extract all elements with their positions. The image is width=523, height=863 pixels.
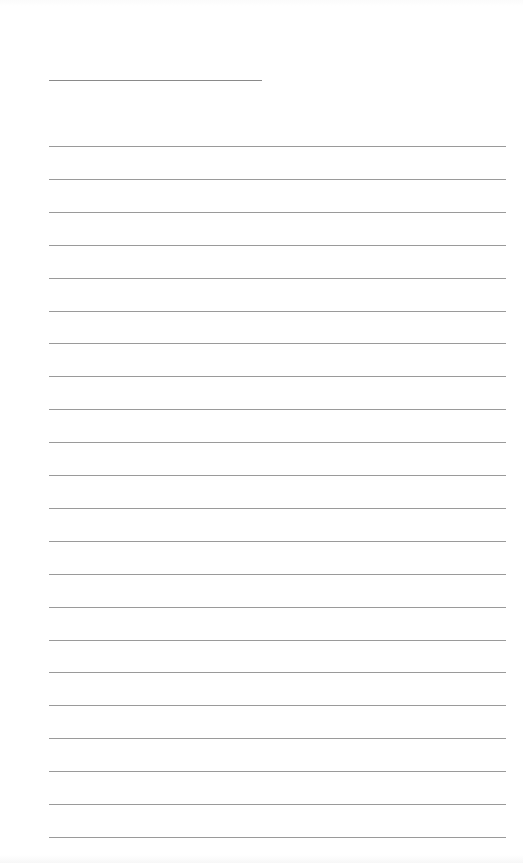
line-text[interactable] (49, 721, 506, 737)
line-text[interactable] (49, 129, 506, 145)
ruled-line (49, 607, 506, 608)
ruled-line (49, 146, 506, 147)
line-text[interactable] (49, 524, 506, 540)
line-text[interactable] (49, 458, 506, 474)
line-text[interactable] (49, 326, 506, 342)
ruled-line (49, 212, 506, 213)
line-text[interactable] (49, 590, 506, 606)
line-text[interactable] (49, 754, 506, 770)
line-text[interactable] (49, 787, 506, 803)
ruled-line (49, 278, 506, 279)
line-text[interactable] (49, 261, 506, 277)
ruled-line (49, 442, 506, 443)
ruled-line (49, 245, 506, 246)
line-text[interactable] (49, 425, 506, 441)
ruled-line (49, 574, 506, 575)
ruled-line (49, 508, 506, 509)
line-text[interactable] (49, 392, 506, 408)
line-text[interactable] (49, 195, 506, 211)
line-text[interactable] (49, 359, 506, 375)
ruled-line (49, 311, 506, 312)
line-text[interactable] (49, 491, 506, 507)
line-text[interactable] (49, 820, 506, 836)
line-text[interactable] (49, 162, 506, 178)
ruled-line (49, 837, 506, 838)
ruled-lines (0, 0, 523, 863)
line-text[interactable] (49, 623, 506, 639)
ruled-line (49, 343, 506, 344)
line-text[interactable] (49, 228, 506, 244)
ruled-line (49, 541, 506, 542)
ruled-line (49, 738, 506, 739)
ruled-line (49, 409, 506, 410)
ruled-line (49, 640, 506, 641)
line-text[interactable] (49, 294, 506, 310)
line-text[interactable] (49, 655, 506, 671)
ruled-line (49, 672, 506, 673)
ruled-line (49, 179, 506, 180)
notepad-page (0, 0, 523, 863)
ruled-line (49, 376, 506, 377)
ruled-line (49, 804, 506, 805)
line-text[interactable] (49, 557, 506, 573)
ruled-line (49, 705, 506, 706)
line-text[interactable] (49, 688, 506, 704)
ruled-line (49, 475, 506, 476)
ruled-line (49, 771, 506, 772)
